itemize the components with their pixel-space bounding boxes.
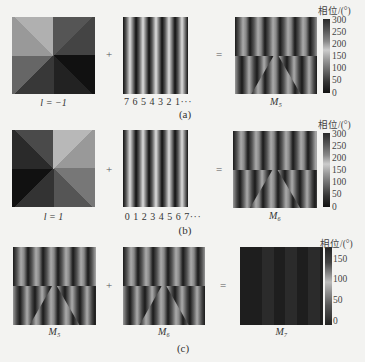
equals-sign-c: = — [220, 279, 226, 291]
label-l-1: l = 1 — [12, 211, 95, 222]
fork-hologram-m5 — [235, 17, 317, 94]
tick: 300 — [332, 129, 346, 139]
vortex-phase-l-neg1 — [12, 17, 95, 94]
plus-sign-a: + — [106, 48, 112, 60]
tick: 0 — [332, 202, 337, 212]
tick: 0 — [333, 316, 338, 326]
equals-sign-a: = — [216, 48, 222, 60]
caption-a: (a) — [165, 108, 205, 120]
label-m6-c: M₆ — [123, 326, 205, 337]
tick: 100 — [333, 274, 347, 284]
tick: 150 — [333, 254, 347, 264]
tick: 200 — [332, 153, 346, 163]
tick: 250 — [332, 141, 346, 151]
tick: 50 — [332, 189, 342, 199]
label-m5: M₅ — [235, 96, 317, 107]
grating-order-a: 7 6 5 4 3 2 1··· — [118, 96, 198, 107]
plus-sign-b: + — [106, 163, 112, 175]
tick: 250 — [332, 27, 346, 37]
vortex-phase-l-1 — [12, 130, 95, 207]
tick: 200 — [332, 39, 346, 49]
fork-hologram-m6-c — [123, 247, 205, 325]
label-l-neg1: l = −1 — [12, 97, 95, 108]
tick: 150 — [332, 51, 346, 61]
grating-b — [123, 130, 188, 207]
tick: 100 — [332, 177, 346, 187]
grating-order-b: 0 1 2 3 4 5 6 7··· — [118, 211, 208, 222]
colorbar-a — [323, 19, 330, 93]
tick: 0 — [332, 88, 337, 98]
tick: 100 — [332, 63, 346, 73]
equals-sign-b: = — [216, 163, 222, 175]
grating-a — [123, 17, 188, 94]
label-m6: M₆ — [233, 210, 317, 221]
tick: 50 — [332, 75, 342, 85]
tick: 150 — [332, 165, 346, 175]
colorbar-b — [323, 133, 330, 207]
caption-b: (b) — [165, 224, 205, 236]
fork-hologram-m6 — [233, 131, 317, 208]
colorbar-c — [325, 247, 332, 325]
caption-c: (c) — [163, 342, 203, 354]
result-phase-m7 — [240, 247, 323, 325]
plus-sign-c: + — [106, 279, 112, 291]
label-m7: M₇ — [240, 326, 323, 337]
tick: 50 — [333, 295, 343, 305]
colorbar-title-c: 相位/(°) — [320, 236, 353, 250]
label-m5-c: M₅ — [13, 326, 96, 337]
fork-hologram-m5-c — [13, 247, 96, 325]
tick: 300 — [332, 15, 346, 25]
